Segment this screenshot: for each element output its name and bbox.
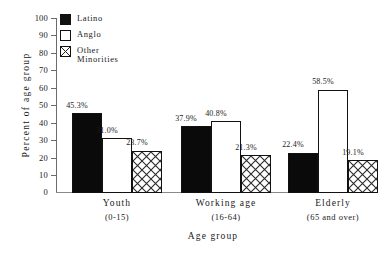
bar-latino-elderly[interactable] xyxy=(288,153,318,193)
y-tick-mark xyxy=(51,18,57,19)
legend-item-latino: Latino xyxy=(60,14,118,25)
y-tick-mark xyxy=(51,35,57,36)
legend: Latino Anglo Other Minorities xyxy=(60,14,118,69)
legend-item-anglo: Anglo xyxy=(60,30,118,41)
y-axis-title: Percent of age group xyxy=(21,30,31,180)
bar-value-label: 31.0% xyxy=(79,126,135,135)
y-tick-label: 100 xyxy=(22,14,48,22)
bar-value-label: 23.7% xyxy=(109,138,165,147)
bar-latino-youth[interactable] xyxy=(72,113,102,193)
y-tick-mark xyxy=(51,140,57,141)
bar-other-minorities-elderly[interactable] xyxy=(348,160,378,193)
legend-label: Latino xyxy=(77,14,103,23)
bar-anglo-elderly[interactable] xyxy=(318,90,348,193)
y-tick-label: 0 xyxy=(22,188,48,196)
legend-swatch-white-icon xyxy=(60,30,71,41)
y-tick-mark xyxy=(51,123,57,124)
x-axis-title: Age group xyxy=(56,231,370,241)
bar-other-minorities-youth[interactable] xyxy=(132,151,162,193)
bar-value-label: 19.1% xyxy=(325,148,378,157)
bar-value-label: 45.3% xyxy=(49,101,105,110)
legend-item-other-minorities: Other Minorities xyxy=(60,46,118,64)
bar-value-label: 58.5% xyxy=(295,77,351,86)
legend-swatch-solid-black-icon xyxy=(60,14,71,25)
group-label-youth: Youth xyxy=(57,198,177,208)
group-label-elderly: Elderly xyxy=(273,198,378,208)
y-tick-mark xyxy=(51,70,57,71)
group-label-working-age: Working age xyxy=(166,198,286,208)
bar-value-label: 22.4% xyxy=(265,140,321,149)
legend-label: Anglo xyxy=(77,30,101,39)
bar-value-label: 40.8% xyxy=(188,109,244,118)
legend-swatch-crosshatch-icon xyxy=(60,46,71,57)
y-tick-mark xyxy=(51,88,57,89)
y-tick-mark xyxy=(51,175,57,176)
bar-anglo-working-age[interactable] xyxy=(211,121,241,193)
bar-latino-working-age[interactable] xyxy=(181,126,211,193)
legend-label: Other Minorities xyxy=(77,46,118,64)
bar-other-minorities-working-age[interactable] xyxy=(241,155,271,193)
group-sublabel-elderly: (65 and over) xyxy=(273,212,378,222)
group-sublabel-working-age: (16-64) xyxy=(166,212,286,222)
y-tick-mark xyxy=(51,53,57,54)
group-sublabel-youth: (0-15) xyxy=(57,212,177,222)
bar-chart: 100 90 80 70 60 50 40 30 20 10 0 Percent… xyxy=(0,0,378,254)
y-tick-mark xyxy=(51,158,57,159)
